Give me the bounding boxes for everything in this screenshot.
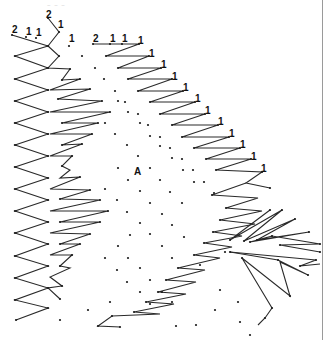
pin-dot bbox=[319, 251, 321, 253]
pin-dot bbox=[61, 79, 63, 81]
pin-dot bbox=[14, 277, 16, 279]
pin-dot bbox=[61, 144, 63, 146]
pin-dot bbox=[159, 179, 161, 181]
pin-dot bbox=[161, 245, 163, 247]
pin-dot bbox=[237, 301, 239, 303]
pin-dot bbox=[114, 90, 116, 92]
pin-dot bbox=[239, 321, 241, 323]
pin-dot bbox=[116, 269, 118, 271]
pin-dot bbox=[279, 244, 281, 246]
pin-dot bbox=[277, 259, 279, 261]
pin-dot bbox=[181, 136, 183, 138]
pin-dot bbox=[117, 67, 119, 69]
pair-count-label: 1 bbox=[229, 128, 235, 139]
pin-dot bbox=[294, 218, 296, 220]
pin-dot bbox=[47, 89, 49, 91]
pin-dot bbox=[71, 254, 73, 256]
pin-dot bbox=[109, 301, 111, 303]
pin-dot bbox=[61, 122, 63, 124]
pin-dot bbox=[157, 291, 159, 293]
pin-dot bbox=[14, 166, 16, 168]
pin-dot bbox=[289, 295, 291, 297]
pin-dot bbox=[103, 78, 105, 80]
pin-dot bbox=[14, 188, 16, 190]
pin-dot bbox=[137, 113, 139, 115]
pin-dot bbox=[81, 143, 83, 145]
pin-dot bbox=[116, 199, 118, 201]
pin-dot bbox=[58, 31, 60, 33]
lace-pricking-diagram: 211211211111111111111 A bbox=[0, 0, 326, 340]
pin-dot bbox=[89, 88, 91, 90]
pin-dot bbox=[47, 67, 49, 69]
pin-dot bbox=[14, 78, 16, 80]
pin-dot bbox=[139, 122, 141, 124]
pin-dot bbox=[101, 100, 103, 102]
pin-dot bbox=[47, 199, 49, 201]
pin-dot bbox=[68, 45, 70, 47]
pin-dot bbox=[15, 319, 17, 321]
pin-dot bbox=[192, 169, 194, 171]
pin-dot bbox=[211, 194, 213, 196]
pin-dot bbox=[99, 199, 101, 201]
thread-line bbox=[98, 183, 262, 327]
pair-count-label: 1 bbox=[183, 82, 189, 93]
pin-dot bbox=[139, 291, 141, 293]
pin-dot bbox=[149, 202, 151, 204]
pin-dot bbox=[71, 155, 73, 157]
pin-dot bbox=[319, 243, 321, 245]
pin-dot bbox=[182, 169, 184, 171]
pin-dot bbox=[139, 222, 141, 224]
pin-dot bbox=[169, 147, 171, 149]
pin-dot bbox=[133, 311, 135, 313]
pin-dot bbox=[59, 298, 61, 300]
pin-dot bbox=[249, 334, 251, 336]
pin-dot bbox=[177, 267, 179, 269]
pair-count-label: 1 bbox=[122, 33, 128, 44]
pin-dot bbox=[264, 317, 266, 319]
pin-dot bbox=[109, 111, 111, 113]
pin-dot bbox=[104, 122, 106, 124]
pin-dot bbox=[47, 111, 49, 113]
pin-dot bbox=[149, 101, 151, 103]
pin-dot bbox=[193, 254, 195, 256]
pin-dot bbox=[14, 144, 16, 146]
pin-dot bbox=[97, 122, 99, 124]
pin-dot bbox=[149, 135, 151, 137]
center-label-a: A bbox=[134, 166, 141, 177]
pin-dot bbox=[229, 239, 231, 241]
pin-dot bbox=[47, 45, 49, 47]
pin-dot bbox=[129, 234, 131, 236]
pin-dot bbox=[307, 274, 309, 276]
pair-count-label: 1 bbox=[149, 48, 155, 59]
pin-dot bbox=[161, 213, 163, 215]
pin-dot bbox=[229, 251, 231, 253]
pin-dot bbox=[215, 169, 217, 171]
pin-dot bbox=[117, 245, 119, 247]
pin-dot bbox=[137, 155, 139, 157]
pair-count-label: 1 bbox=[205, 105, 211, 116]
pin-dot bbox=[149, 303, 151, 305]
pin-dot bbox=[117, 100, 119, 102]
pin-dot bbox=[104, 257, 106, 259]
pin-dot bbox=[159, 145, 161, 147]
pair-count-label: 1 bbox=[261, 163, 267, 174]
pair-count-label: 1 bbox=[161, 59, 167, 70]
pin-dot bbox=[47, 265, 49, 267]
pin-dot bbox=[169, 191, 171, 193]
pin-dot bbox=[89, 233, 91, 235]
pin-dot bbox=[145, 301, 147, 303]
pin-dot bbox=[105, 55, 107, 57]
pin-dot bbox=[171, 257, 173, 259]
pin-dot bbox=[87, 309, 89, 311]
pair-count-label: 1 bbox=[26, 26, 32, 37]
pin-dot bbox=[57, 98, 59, 100]
pin-dot bbox=[59, 265, 61, 267]
pair-count-label: 1 bbox=[58, 19, 64, 30]
pin-dot bbox=[271, 307, 273, 309]
pin-dot bbox=[149, 167, 151, 169]
pin-dot bbox=[59, 198, 61, 200]
pin-dot bbox=[199, 264, 201, 266]
pin-dot bbox=[149, 233, 151, 235]
pin-dot bbox=[127, 78, 129, 80]
pin-dot bbox=[14, 100, 16, 102]
